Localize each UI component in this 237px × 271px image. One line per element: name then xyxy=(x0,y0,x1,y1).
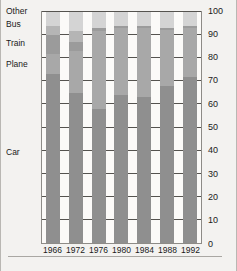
bar-1980 xyxy=(114,12,128,243)
y-tick-100: 100 xyxy=(208,7,223,16)
horizontal-rule xyxy=(8,256,222,257)
x-tick-1984: 1984 xyxy=(134,245,156,256)
bar-segment-1980-plane xyxy=(114,28,128,95)
plot-area xyxy=(41,11,202,244)
x-tick-1976: 1976 xyxy=(88,245,110,256)
bar-segment-1984-car xyxy=(137,97,151,243)
bar-segment-1972-other xyxy=(69,12,83,30)
x-tick-1980: 1980 xyxy=(111,245,133,256)
chart-page: OtherBusTrainPlaneCar 100908070605040302… xyxy=(0,0,237,271)
y-tick-30: 30 xyxy=(208,170,218,179)
bar-segment-1984-plane xyxy=(137,28,151,97)
y-tick-60: 60 xyxy=(208,100,218,109)
bar-segment-1966-car xyxy=(46,74,60,243)
bar-segment-1972-car xyxy=(69,93,83,243)
bar-segment-1988-plane xyxy=(160,30,174,85)
x-tick-1992: 1992 xyxy=(180,245,202,256)
x-tick-1966: 1966 xyxy=(42,245,64,256)
bar-1976 xyxy=(92,12,106,243)
y-tick-10: 10 xyxy=(208,216,218,225)
legend-label-train: Train xyxy=(6,38,25,48)
bar-segment-1976-plane xyxy=(92,31,106,110)
bar-1972 xyxy=(69,12,83,243)
bars-layer xyxy=(42,12,201,243)
bar-segment-1988-other xyxy=(160,12,174,28)
y-tick-70: 70 xyxy=(208,76,218,85)
bar-1966 xyxy=(46,12,60,243)
chart-legend: OtherBusTrainPlaneCar xyxy=(6,0,42,250)
bar-1984 xyxy=(137,12,151,243)
y-tick-50: 50 xyxy=(208,123,218,132)
y-tick-0: 0 xyxy=(208,240,213,249)
bar-segment-1980-other xyxy=(114,12,128,26)
bar-1988 xyxy=(160,12,174,243)
legend-label-plane: Plane xyxy=(6,59,28,69)
bar-segment-1976-car xyxy=(92,109,106,243)
x-tick-1972: 1972 xyxy=(65,245,87,256)
bar-segment-1992-plane xyxy=(183,28,197,77)
y-tick-20: 20 xyxy=(208,193,218,202)
bar-segment-1976-other xyxy=(92,12,106,28)
bar-segment-1972-plane xyxy=(69,51,83,93)
y-tick-40: 40 xyxy=(208,146,218,155)
bar-segment-1992-other xyxy=(183,12,197,26)
bar-segment-1992-car xyxy=(183,77,197,243)
y-axis: 1009080706050403020100 xyxy=(204,0,234,250)
page-left-border xyxy=(0,0,1,271)
legend-label-other: Other xyxy=(6,6,27,16)
bar-segment-1972-train xyxy=(69,42,83,51)
bar-segment-1980-car xyxy=(114,95,128,243)
page-right-border xyxy=(236,0,237,271)
bar-1992 xyxy=(183,12,197,243)
bar-segment-1966-other xyxy=(46,12,60,26)
y-tick-80: 80 xyxy=(208,53,218,62)
bar-segment-1984-other xyxy=(137,12,151,26)
legend-label-bus: Bus xyxy=(6,19,21,29)
legend-label-car: Car xyxy=(6,147,20,157)
bar-segment-1988-car xyxy=(160,86,174,243)
bar-segment-1972-bus xyxy=(69,31,83,43)
bar-segment-1966-plane xyxy=(46,54,60,75)
bar-segment-1966-train xyxy=(46,35,60,53)
x-tick-1988: 1988 xyxy=(157,245,179,256)
y-tick-90: 90 xyxy=(208,30,218,39)
bar-segment-1966-bus xyxy=(46,26,60,35)
